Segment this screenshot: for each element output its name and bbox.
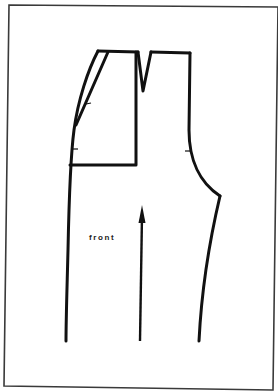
piece-label: front xyxy=(89,233,115,242)
grain-line xyxy=(140,215,142,341)
side-seam xyxy=(66,51,98,341)
pocket-facing-rectangle xyxy=(70,52,136,165)
pattern-diagram: front xyxy=(0,0,278,392)
waistband-top-line-left xyxy=(98,51,138,52)
waistband-top-line-right xyxy=(151,52,190,53)
inseam xyxy=(199,196,220,341)
arrow-up-icon xyxy=(139,205,146,223)
crotch-curve xyxy=(189,53,220,196)
waist-dart xyxy=(138,52,151,91)
